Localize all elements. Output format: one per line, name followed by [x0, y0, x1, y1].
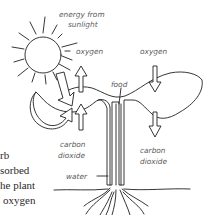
co2-left-label-line1: carbon [60, 140, 86, 149]
side-text-line2: sorbed [0, 164, 30, 176]
side-text-line3: he plant [0, 179, 35, 191]
food-leader-line [119, 88, 121, 104]
stem-tubes [98, 99, 121, 185]
co2-left-label-line2: dioxide [58, 151, 85, 160]
water-label: water [66, 172, 88, 181]
co2-right-label-line1: carbon [140, 146, 166, 155]
co2-right-label-line2: dioxide [140, 157, 167, 166]
side-text-line4: oxygen [3, 194, 36, 206]
roots [84, 188, 148, 215]
side-text-line1: rb [0, 149, 10, 161]
oxygen-left-label: oxygen [76, 47, 104, 56]
down-arrow-icon [149, 66, 161, 92]
energy-label-line2: sunlight [68, 20, 99, 29]
up-arrow-icon [75, 66, 87, 92]
oxygen-right-label: oxygen [140, 47, 168, 56]
photosynthesis-diagram: energy from sunlight oxygen carbon dioxi… [0, 0, 205, 215]
up-arrow-icon [75, 104, 87, 130]
food-label: food [111, 80, 128, 89]
down-arrow-icon [149, 112, 161, 137]
energy-label-line1: energy from [59, 10, 105, 19]
